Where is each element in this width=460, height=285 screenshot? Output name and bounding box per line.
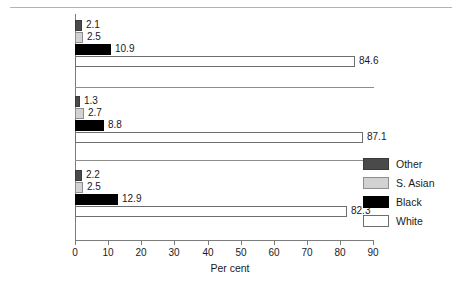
bar-other [75,170,82,181]
bar-value-other: 2.2 [86,169,100,181]
bar-black [75,194,118,205]
bar-row-white: 82.3 [75,206,375,217]
bar-row-white: 84.6 [75,56,375,67]
bar-group-sentenced-adults: Sentenced adults 2.1 2.5 10.9 84.6 [75,20,375,68]
legend-item-other: Other [363,155,459,172]
bar-other [75,96,80,107]
bar-other [75,20,82,31]
x-tick-80 [340,240,341,245]
bar-row-s-asian: 2.5 [75,182,375,193]
bar-row-black: 10.9 [75,44,375,55]
legend-label-white: White [396,215,423,227]
bar-row-white: 87.1 [75,132,375,143]
x-tick-label-60: 60 [262,247,286,259]
legend-label-black: Black [396,196,422,208]
bar-group-sentenced-young: Sentenced young 1.3 2.7 8.8 87.1 [75,96,375,144]
bar-s-asian [75,32,83,43]
x-tick-label-90: 90 [361,247,385,259]
x-tick-90 [373,240,374,245]
legend-label-other: Other [396,158,422,170]
legend-item-black: Black [363,193,459,210]
group-separator [75,87,374,88]
bar-row-other: 2.1 [75,20,375,31]
x-tick-60 [274,240,275,245]
x-tick-label-70: 70 [295,247,319,259]
group-separator [75,160,374,161]
bar-value-s-asian: 2.5 [87,181,101,193]
legend-item-s-asian: S. Asian [363,174,459,191]
bar-value-other: 1.3 [84,95,98,107]
x-tick-label-80: 80 [328,247,352,259]
bar-row-s-asian: 2.7 [75,108,375,119]
bar-black [75,120,104,131]
bar-value-black: 10.9 [115,43,134,55]
bar-s-asian [75,182,83,193]
bar-group-remand: Remand 2.2 2.5 12.9 82.3 [75,170,375,218]
legend-swatch-black-icon [363,196,389,208]
x-tick-label-10: 10 [96,247,120,259]
x-tick-label-30: 30 [162,247,186,259]
bar-value-white: 84.6 [359,55,378,67]
legend-label-s-asian: S. Asian [396,177,435,189]
x-tick-50 [241,240,242,245]
bar-value-s-asian: 2.7 [88,107,102,119]
bar-row-s-asian: 2.5 [75,32,375,43]
x-tick-label-40: 40 [196,247,220,259]
bar-value-s-asian: 2.5 [87,31,101,43]
bar-row-other: 1.3 [75,96,375,107]
bar-row-black: 8.8 [75,120,375,131]
bar-row-other: 2.2 [75,170,375,181]
x-tick-70 [307,240,308,245]
bar-black [75,44,111,55]
x-tick-40 [208,240,209,245]
x-tick-label-0: 0 [63,247,87,259]
bar-s-asian [75,108,84,119]
legend-item-white: White [363,212,459,229]
x-tick-20 [141,240,142,245]
bar-white [75,206,347,217]
x-tick-0 [75,240,76,245]
bar-white [75,56,355,67]
legend-swatch-s-asian-icon [363,177,389,189]
bar-value-black: 8.8 [108,119,122,131]
x-axis-title: Per cent [0,262,460,274]
bar-row-black: 12.9 [75,194,375,205]
bar-value-white: 87.1 [367,131,386,143]
legend-swatch-white-icon [363,215,389,227]
x-axis-line [75,240,374,241]
legend-swatch-other-icon [363,158,389,170]
bar-value-black: 12.9 [122,193,141,205]
chart-legend: Other S. Asian Black White [363,155,459,231]
page-rule-divider [10,7,452,8]
x-tick-label-50: 50 [229,247,253,259]
chart-figure: Sentenced adults 2.1 2.5 10.9 84.6 Sente… [0,0,460,285]
x-tick-10 [108,240,109,245]
bar-value-other: 2.1 [86,19,100,31]
x-tick-label-20: 20 [129,247,153,259]
x-tick-30 [174,240,175,245]
bar-white [75,132,363,143]
